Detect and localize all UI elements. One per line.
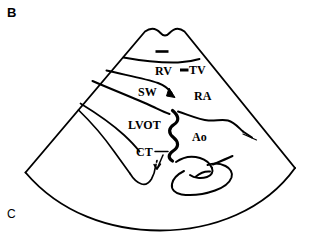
label-ao: Ao — [192, 131, 207, 143]
aortic-root-boundary — [169, 111, 178, 162]
aortic-leaflet-outline — [176, 157, 212, 178]
label-tv: TV — [189, 64, 206, 76]
label-rv: RV — [155, 65, 172, 77]
lower-vessel-outline — [172, 156, 233, 195]
panel-label-c: C — [7, 208, 16, 220]
panel-label-b: B — [7, 6, 16, 19]
ra-floor-contour — [178, 112, 252, 138]
figure-container: B C RV TV SW RA LVOT Ao CT — [0, 0, 310, 237]
label-ct: CT — [136, 146, 153, 158]
label-sw: SW — [138, 86, 157, 98]
rv-roof-contour — [124, 58, 200, 63]
lvot-wall-contours — [79, 104, 140, 174]
papillary-muscle-outline — [130, 161, 157, 185]
septal-wall-contour — [93, 81, 170, 114]
label-lvot: LVOT — [128, 119, 161, 131]
label-ra: RA — [194, 90, 211, 102]
